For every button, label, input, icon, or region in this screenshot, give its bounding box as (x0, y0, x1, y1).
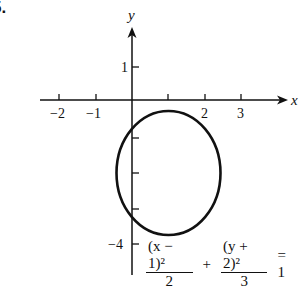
denominator-y: 3 (240, 273, 248, 290)
numerator-x: (x − 1)² (146, 238, 193, 273)
tick-label-neg2: −2 (50, 106, 65, 121)
fraction-x-term: (x − 1)² 2 (146, 238, 193, 290)
tick-label-2: 2 (201, 106, 208, 121)
tick-label-yneg4: −4 (108, 237, 123, 252)
x-ticks (59, 94, 241, 100)
equals-one: = 1 (277, 247, 296, 281)
tick-label-y1: 1 (121, 60, 128, 75)
numerator-y: (y + 2)² (221, 238, 268, 273)
fraction-y-term: (y + 2)² 3 (221, 238, 268, 290)
x-axis-label: x (290, 92, 298, 108)
tick-label-neg1: −1 (86, 106, 101, 121)
y-axis-label: y (126, 7, 135, 23)
plus-sign: + (203, 256, 211, 273)
ellipse-equation: (x − 1)² 2 + (y + 2)² 3 = 1 (142, 238, 302, 290)
denominator-x: 2 (166, 273, 174, 290)
tick-label-3: 3 (237, 106, 244, 121)
